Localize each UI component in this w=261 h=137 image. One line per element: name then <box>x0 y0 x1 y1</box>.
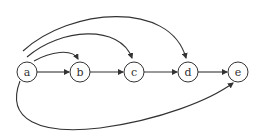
edge-a-c-arc <box>27 34 132 58</box>
edge-a-d-arc <box>23 17 186 58</box>
node-e: e <box>228 62 248 82</box>
node-label: c <box>131 66 137 79</box>
node-c: c <box>124 62 144 82</box>
graph-diagram: a b c d e <box>0 0 261 137</box>
node-label: d <box>184 66 191 79</box>
node-b: b <box>70 62 90 82</box>
edge-a-e-arc <box>17 81 233 130</box>
node-a: a <box>17 62 37 82</box>
node-label: b <box>76 66 83 79</box>
node-label: a <box>24 66 31 79</box>
node-d: d <box>178 62 198 82</box>
edge-a-b-arc <box>34 52 78 61</box>
node-label: e <box>235 66 242 79</box>
